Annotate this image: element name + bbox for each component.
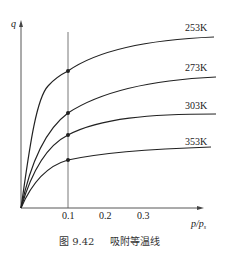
- figure-caption: 吸附等温线: [110, 235, 160, 247]
- adsorption-isotherm-diagram: 253K 273K 303K 353K q p/ps 0.1 0.2 0.3 图…: [0, 0, 228, 258]
- marker-353K: [66, 158, 70, 162]
- x-axis-label: p/ps: [190, 218, 207, 230]
- label-353K: 353K: [185, 136, 208, 147]
- label-253K: 253K: [185, 22, 208, 33]
- marker-273K: [66, 111, 70, 115]
- label-303K: 303K: [185, 100, 208, 111]
- label-273K: 273K: [185, 62, 208, 73]
- y-axis-arrow-icon: [19, 20, 23, 27]
- y-axis-label: q: [11, 18, 16, 29]
- marker-253K: [66, 69, 70, 73]
- x-tick-0.1: 0.1: [62, 210, 75, 221]
- x-axis-arrow-icon: [197, 206, 204, 210]
- isotherm-353K: [21, 147, 211, 208]
- figure-number: 图 9.42: [59, 236, 94, 247]
- x-tick-0.2: 0.2: [99, 210, 112, 221]
- x-tick-0.3: 0.3: [137, 210, 150, 221]
- isotherm-303K: [21, 114, 216, 208]
- marker-303K: [66, 133, 70, 137]
